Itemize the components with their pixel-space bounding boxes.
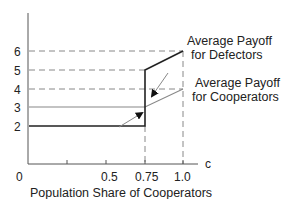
cooperators-label-line1: Average Payoff <box>195 76 281 90</box>
y-tick-label-6: 6 <box>14 45 21 59</box>
x-tick-label-100: 1.0 <box>174 170 191 184</box>
defectors-label-line2: for Defectors <box>191 48 263 62</box>
payoff-chart: 6 5 4 3 2 0 0.5 0.75 1.0 c Population Sh… <box>0 0 296 199</box>
x-tick-label-050: 0.5 <box>101 170 118 184</box>
y-tick-label-5: 5 <box>14 64 21 78</box>
y-tick-label-3: 3 <box>14 101 21 115</box>
arrow-from-left-icon <box>119 113 142 127</box>
defectors-label-line1: Average Payoff <box>187 34 273 48</box>
cooperators-payoff-line <box>29 89 183 107</box>
y-tick-label-2: 2 <box>14 120 21 134</box>
y-tick-label-4: 4 <box>14 83 21 97</box>
x-tick-label-0: 0 <box>16 170 23 184</box>
x-tick-label-075: 0.75 <box>135 170 159 184</box>
x-axis-title: Population Share of Cooperators <box>30 186 212 199</box>
arrow-from-right-icon <box>152 73 168 96</box>
cooperators-label-line2: for Cooperators <box>192 90 279 104</box>
x-variable-label: c <box>205 157 211 171</box>
